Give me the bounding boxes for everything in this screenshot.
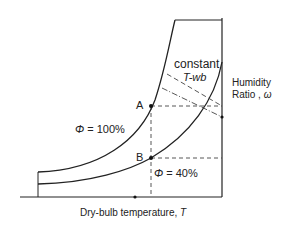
point-b-label: B (136, 152, 143, 163)
saturation-curve (38, 20, 175, 172)
omega-symbol: ω (264, 89, 272, 100)
humidity-ratio-label: Humidity Ratio , ω (232, 77, 271, 101)
t-symbol: T (180, 207, 186, 218)
phi-100-label: Φ = 100% (75, 124, 125, 135)
phi-100-value: = 100% (84, 123, 125, 135)
phi-symbol: Φ (154, 167, 163, 179)
x-axis-label: Dry-bulb temperature, T (80, 208, 186, 218)
phi-symbol: Φ (75, 123, 84, 135)
point-a-marker (149, 104, 153, 108)
constant-label: constant (174, 58, 219, 70)
point-a-label: A (136, 100, 143, 111)
humidity-label-line1: Humidity (232, 77, 271, 89)
x-axis-marker (133, 195, 136, 198)
humidity-label-line2: Ratio , ω (232, 89, 271, 101)
x-axis-text: Dry-bulb temperature, (80, 207, 180, 218)
humidity-ratio-text: Ratio , (232, 89, 264, 100)
phi-40-label: Φ = 40% (154, 168, 198, 179)
phi-40-value: = 40% (163, 167, 198, 179)
point-b-marker (149, 156, 153, 160)
wet-bulb-label: T-wb (183, 72, 206, 83)
wet-bulb-axis-marker (220, 115, 223, 118)
psychrometric-diagram (0, 0, 284, 232)
